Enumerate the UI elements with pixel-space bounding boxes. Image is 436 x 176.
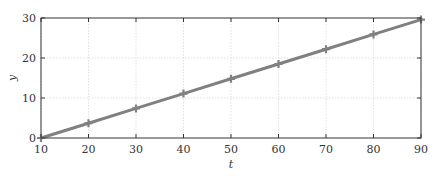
y-tick-label: 30 (22, 12, 36, 25)
plus-marker-icon (322, 45, 330, 53)
x-tick-label: 80 (367, 143, 381, 156)
x-tick-label: 10 (34, 143, 48, 156)
x-tick-labels: 102030405060708090 (34, 143, 428, 156)
x-tick-label: 90 (414, 143, 428, 156)
x-tick-label: 60 (272, 143, 286, 156)
y-tick-label: 20 (22, 52, 36, 65)
plus-marker-icon (85, 119, 93, 127)
plus-marker-icon (180, 90, 188, 98)
x-tick-label: 70 (319, 143, 333, 156)
y-tick-labels: 0102030 (22, 12, 36, 145)
plus-marker-icon (227, 75, 235, 83)
x-tick-label: 40 (177, 143, 191, 156)
x-tick-label: 20 (82, 143, 96, 156)
x-tick-label: 50 (224, 143, 238, 156)
y-tick-label: 0 (29, 132, 36, 145)
y-axis-label: y (6, 74, 19, 82)
x-axis-label: t (229, 158, 234, 171)
line-chart: 102030405060708090 0102030 t y (0, 0, 436, 176)
plus-marker-icon (275, 60, 283, 68)
plus-marker-icon (370, 30, 378, 38)
plus-marker-icon (132, 104, 140, 112)
y-tick-label: 10 (22, 92, 36, 105)
x-tick-label: 30 (129, 143, 143, 156)
